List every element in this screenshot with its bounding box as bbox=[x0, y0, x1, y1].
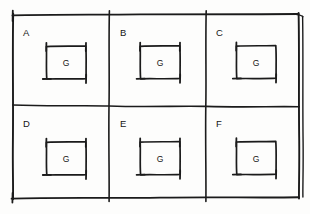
grid-cell-a[interactable]: A G bbox=[23, 27, 86, 83]
grid-cell-e[interactable]: E G bbox=[120, 118, 180, 179]
cell-label-e: E bbox=[120, 118, 127, 129]
cell-label-b: B bbox=[120, 27, 127, 38]
inner-box-c[interactable]: G bbox=[233, 42, 276, 82]
grid-cell-c[interactable]: C G bbox=[216, 27, 276, 83]
outer-frame-right-edge bbox=[299, 13, 300, 199]
cell-label-c: C bbox=[216, 27, 223, 38]
inner-box-label-e: G bbox=[157, 154, 164, 164]
outer-frame-top-edge bbox=[13, 14, 299, 15]
inner-box-label-b: G bbox=[157, 58, 164, 68]
inner-box-a[interactable]: G bbox=[43, 43, 86, 83]
outer-frame-right-edge-retrace bbox=[303, 16, 304, 197]
grid-horizontal-dividers bbox=[13, 105, 299, 107]
inner-box-d[interactable]: G bbox=[43, 139, 86, 179]
inner-box-e[interactable]: G bbox=[137, 138, 181, 178]
inner-box-label-c: G bbox=[253, 58, 260, 68]
inner-box-label-d: G bbox=[63, 154, 70, 164]
cell-label-a: A bbox=[23, 27, 30, 38]
cell-label-f: F bbox=[216, 118, 222, 129]
hand-drawn-grid-diagram: A G B G C bbox=[0, 0, 310, 214]
inner-box-f[interactable]: G bbox=[233, 138, 276, 178]
outer-frame-bottom-edge bbox=[12, 197, 299, 198]
horizontal-divider-1 bbox=[13, 105, 299, 107]
inner-box-label-f: G bbox=[253, 154, 260, 164]
inner-box-label-a: G bbox=[63, 58, 70, 68]
grid-cell-b[interactable]: B G bbox=[120, 27, 180, 83]
grid-cell-f[interactable]: F G bbox=[216, 118, 276, 179]
diagram-canvas: A G B G C bbox=[0, 0, 310, 214]
inner-box-b[interactable]: G bbox=[137, 43, 181, 83]
cell-label-d: D bbox=[23, 118, 30, 129]
grid-cell-d[interactable]: D G bbox=[23, 118, 86, 179]
